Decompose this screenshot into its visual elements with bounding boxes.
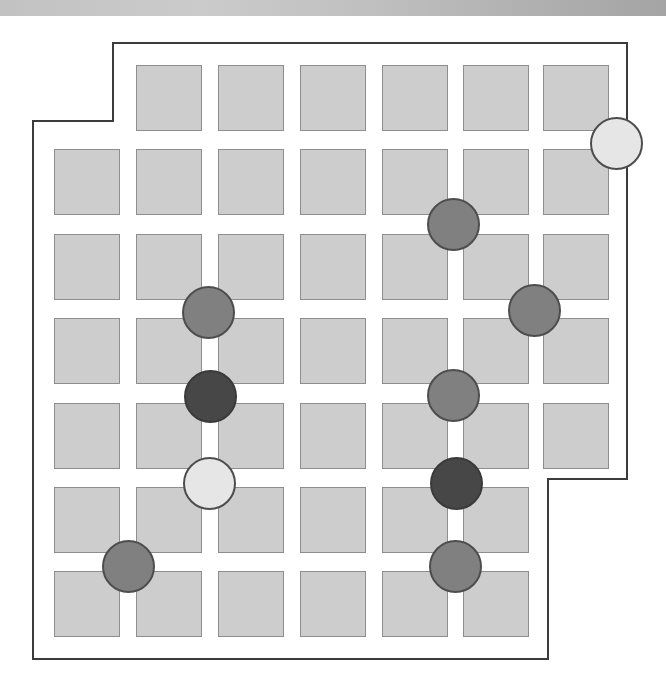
game-piece-dark[interactable] (430, 457, 483, 510)
board-cell[interactable] (54, 318, 120, 384)
game-piece-medium[interactable] (508, 284, 561, 337)
board-cell[interactable] (54, 149, 120, 215)
board-cell[interactable] (382, 65, 448, 131)
board-cell[interactable] (300, 318, 366, 384)
game-piece-light[interactable] (590, 117, 643, 170)
game-piece-medium[interactable] (427, 369, 480, 422)
board-cell[interactable] (54, 403, 120, 469)
game-piece-medium[interactable] (427, 198, 480, 251)
board-cell[interactable] (218, 234, 284, 300)
board-cell[interactable] (300, 571, 366, 637)
board-cell[interactable] (218, 65, 284, 131)
board-cell[interactable] (218, 149, 284, 215)
board-cell[interactable] (218, 571, 284, 637)
board-cell[interactable] (300, 403, 366, 469)
game-piece-medium[interactable] (102, 540, 155, 593)
game-piece-light[interactable] (183, 457, 236, 510)
board-cell[interactable] (543, 234, 609, 300)
board-cell[interactable] (463, 149, 529, 215)
board-cell[interactable] (463, 65, 529, 131)
game-piece-dark[interactable] (184, 370, 237, 423)
board-cell[interactable] (54, 487, 120, 553)
board-cell[interactable] (136, 65, 202, 131)
board-cell[interactable] (300, 65, 366, 131)
board-cell[interactable] (300, 487, 366, 553)
board-cell[interactable] (300, 149, 366, 215)
board-cell[interactable] (543, 65, 609, 131)
board-cell[interactable] (543, 403, 609, 469)
game-piece-medium[interactable] (182, 286, 235, 339)
board-cell[interactable] (54, 234, 120, 300)
game-piece-medium[interactable] (429, 540, 482, 593)
board-cell[interactable] (300, 234, 366, 300)
board-cell[interactable] (136, 149, 202, 215)
